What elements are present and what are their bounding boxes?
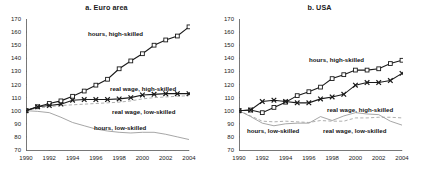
x-tick-label: 1996 [83, 155, 109, 161]
x-tick-label: 1992 [36, 155, 62, 161]
series-marker-square [272, 106, 276, 110]
series-marker-square [94, 83, 98, 87]
series-marker-square [260, 111, 264, 115]
y-tick-label: 140 [1, 55, 21, 61]
series-marker-square [164, 38, 168, 42]
annotation-real-wage-high-skilled: real wage, high-skilled [327, 106, 393, 113]
annotation-hours-high-skilled: hours, high-skilled [88, 30, 143, 37]
panel-title-usa: b. USA [213, 3, 426, 12]
plot-area-euro-area: 7080901001101201301401501601701990199219… [26, 19, 189, 150]
series-marker-square [82, 89, 86, 93]
y-tick-label: 150 [1, 42, 21, 48]
series-marker-square [71, 94, 75, 98]
x-tick-label: 1998 [106, 155, 132, 161]
series-marker-square [175, 34, 179, 38]
series-marker-square [388, 62, 392, 66]
x-tick-label: 1992 [249, 155, 275, 161]
series-marker-square [330, 77, 334, 81]
panel-usa: b. USA 708090100110120130140150160170199… [213, 0, 426, 179]
x-tick-label: 1994 [273, 155, 299, 161]
y-tick-label: 120 [214, 82, 234, 88]
y-tick-label: 70 [1, 147, 21, 153]
series-marker-square [187, 25, 190, 29]
series-marker-square [354, 68, 358, 72]
y-tick-label: 110 [1, 95, 21, 101]
series-marker-square [295, 94, 299, 98]
x-tick-label: 1990 [13, 155, 39, 161]
series-marker-square [377, 67, 381, 71]
series-marker-square [152, 43, 156, 47]
x-tick-label: 2002 [153, 155, 179, 161]
x-tick-label: 2004 [389, 155, 415, 161]
y-tick-label: 130 [1, 68, 21, 74]
y-tick-label: 160 [1, 29, 21, 35]
x-tick-label: 1998 [319, 155, 345, 161]
series-marker-square [106, 77, 110, 81]
y-tick-label: 70 [214, 147, 234, 153]
annotation-hours-low-skilled: hours, low-skilled [247, 127, 299, 134]
x-tick-label: 2000 [129, 155, 155, 161]
series-marker-square [129, 59, 133, 63]
y-tick-label: 160 [214, 29, 234, 35]
annotation-real-wage-low-skilled: real wage, low-skilled [112, 108, 175, 115]
y-tick-label: 120 [1, 82, 21, 88]
x-tick-label: 2000 [342, 155, 368, 161]
panel-title-euro-area: a. Euro area [0, 3, 213, 12]
x-tick-label: 1996 [296, 155, 322, 161]
series-marker-square [141, 52, 145, 56]
annotation-real-wage-low-skilled: real wage, low-skilled [323, 127, 386, 134]
plot-area-usa: 7080901001101201301401501601701990199219… [239, 19, 402, 150]
series-marker-square [117, 67, 121, 71]
series-marker-x [400, 71, 403, 76]
y-tick-label: 80 [214, 134, 234, 140]
series-marker-square [307, 90, 311, 94]
y-tick-label: 150 [214, 42, 234, 48]
annotation-real-wage-high-skilled: real wage, high-skilled [110, 85, 176, 92]
y-tick-label: 90 [214, 121, 234, 127]
series-marker-square [365, 68, 369, 72]
x-tick-label: 1990 [226, 155, 252, 161]
y-tick-label: 100 [1, 108, 21, 114]
x-tick-label: 1994 [60, 155, 86, 161]
y-tick-label: 80 [1, 134, 21, 140]
panel-euro-area: a. Euro area 708090100110120130140150160… [0, 0, 213, 179]
y-tick-label: 110 [214, 95, 234, 101]
y-tick-label: 170 [214, 16, 234, 22]
series-marker-square [400, 58, 403, 62]
series-marker-square [319, 85, 323, 89]
y-tick-label: 140 [214, 55, 234, 61]
x-tick-label: 2004 [176, 155, 202, 161]
y-tick-label: 170 [1, 16, 21, 22]
figure-container: a. Euro area 708090100110120130140150160… [0, 0, 426, 179]
annotation-hours-low-skilled: hours, low-skilled [94, 124, 146, 131]
y-tick-label: 130 [214, 68, 234, 74]
y-tick-label: 90 [1, 121, 21, 127]
series-marker-square [342, 73, 346, 77]
annotation-hours-high-skilled: hours, high-skilled [309, 56, 364, 63]
y-tick-label: 100 [214, 108, 234, 114]
x-tick-label: 2002 [366, 155, 392, 161]
